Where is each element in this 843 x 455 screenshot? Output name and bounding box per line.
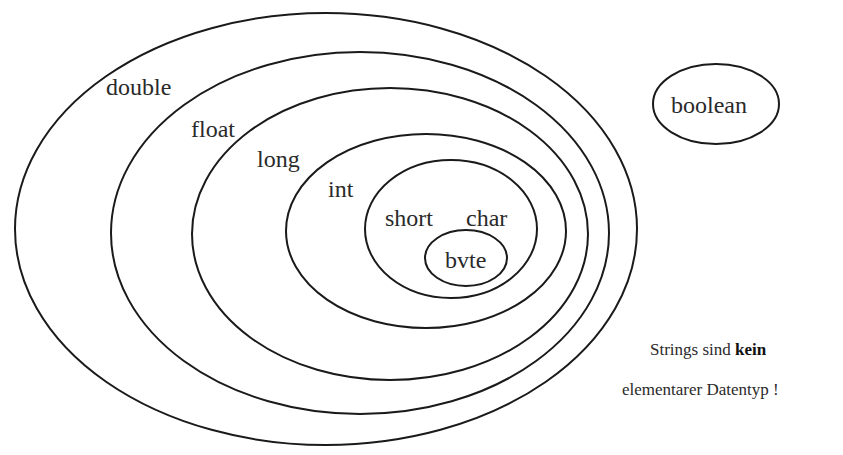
label-int: int	[328, 177, 353, 201]
ellipse-long	[192, 88, 588, 380]
strings-note-prefix: Strings sind	[650, 340, 735, 359]
label-long: long	[257, 147, 300, 171]
label-short: short	[385, 206, 433, 230]
strings-note-line1: Strings sind kein	[650, 341, 766, 358]
ellipse-float	[111, 52, 609, 414]
strings-note-bold: kein	[735, 340, 766, 359]
label-float: float	[191, 117, 235, 141]
label-double: double	[106, 75, 171, 99]
label-char: char	[466, 206, 507, 230]
label-byte: bvte	[445, 248, 486, 272]
label-boolean: boolean	[671, 93, 747, 117]
strings-note-line2: elementarer Datentyp !	[622, 381, 779, 398]
